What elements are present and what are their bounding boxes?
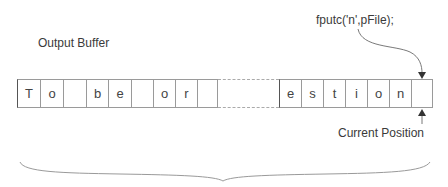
arrow-down-icon — [418, 72, 426, 79]
arrow-up-icon — [418, 109, 426, 116]
fputc-arrow — [358, 29, 422, 73]
diagram-lines — [0, 0, 448, 187]
bottom-brace — [20, 162, 430, 181]
